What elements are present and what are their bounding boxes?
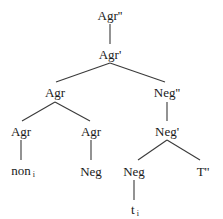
edge-agrbar-agrhead [56,63,110,82]
node-neg-bar: Neg' [155,125,179,138]
node-agr-left: Agr [11,125,31,138]
node-neg-double-bar: Neg'' [154,86,180,99]
edge-negbar-tdp [167,140,200,160]
node-agr-double-bar: Agr'' [98,9,123,22]
node-neg-head: Neg [123,165,145,178]
node-neg-under-agr: Neg [80,165,102,178]
node-agr-head: Agr [45,86,65,99]
non-subscript: i [33,170,35,179]
non-label: non [11,163,31,178]
node-agr-right: Agr [81,125,101,138]
edge-negbar-neghead [138,140,167,160]
trace-subscript: i [137,209,139,218]
tree-edges [0,0,223,219]
trace-label: t [131,202,135,217]
node-non: noni [11,164,35,179]
edge-agrhead-agrright [55,102,90,121]
node-trace: ti [131,203,139,218]
syntax-tree-diagram: Agr'' Agr' Agr Neg'' Agr Agr Neg' noni N… [0,0,223,219]
edge-agrhead-agrleft [22,102,55,121]
edge-agrbar-negdp [110,63,165,82]
node-agr-bar: Agr' [99,48,122,61]
node-t-double-bar: T'' [197,165,210,178]
